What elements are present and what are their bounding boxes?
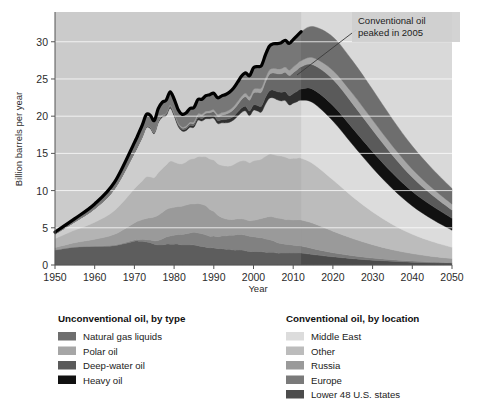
y-tick-label-10: 10 (36, 185, 48, 197)
x-tick-label-2050: 2050 (440, 271, 464, 283)
y-tick-label-5: 5 (42, 222, 48, 234)
legend-swatch-other (286, 347, 304, 356)
x-tick-label-2010: 2010 (282, 271, 306, 283)
x-tick-label-2030: 2030 (361, 271, 385, 283)
legend-swatch-deep-water-oil (58, 361, 76, 370)
annotation-line-2: peaked in 2005 (358, 27, 423, 38)
legend-label-natural-gas-liquids: Natural gas liquids (83, 331, 162, 342)
x-tick-label-1950: 1950 (43, 271, 67, 283)
x-tick-label-2000: 2000 (242, 271, 266, 283)
x-tick-label-1970: 1970 (123, 271, 147, 283)
y-axis-title: Billion barrels per year (13, 92, 24, 187)
legend-swatch-natural-gas-liquids (58, 332, 76, 341)
legend-swatch-europe (286, 376, 304, 385)
legend-label-polar-oil: Polar oil (83, 346, 118, 357)
y-tick-label-0: 0 (42, 259, 48, 271)
historical-region-shade (55, 12, 301, 265)
x-axis-title: Year (248, 283, 267, 294)
legend-swatch-lower-48-u-s-states (286, 390, 304, 399)
legend-label-europe: Europe (311, 375, 342, 386)
forecast-region-shade (55, 12, 301, 265)
legend-label-lower-48-u-s-states: Lower 48 U.S. states (311, 389, 400, 400)
x-tick-label-2020: 2020 (321, 271, 345, 283)
legend-left-title: Unconventional oil, by type (58, 313, 186, 324)
legend-label-middle-east: Middle East (311, 331, 361, 342)
legend-swatch-russia (286, 361, 304, 370)
y-tick-label-20: 20 (36, 110, 48, 122)
legend-label-deep-water-oil: Deep-water oil (83, 360, 145, 371)
legend-label-heavy-oil: Heavy oil (83, 375, 122, 386)
stacked-area-chart: 0510152025301950196019701980199020002010… (0, 0, 480, 409)
legend-label-other: Other (311, 346, 336, 357)
legend-label-russia: Russia (311, 360, 341, 371)
legend-swatch-heavy-oil (58, 376, 76, 385)
legend-right-title: Conventional oil, by location (286, 313, 419, 324)
x-tick-label-1980: 1980 (162, 271, 186, 283)
x-tick-label-1960: 1960 (83, 271, 107, 283)
legend-swatch-middle-east (286, 332, 304, 341)
y-tick-label-15: 15 (36, 147, 48, 159)
oil-production-figure: 0510152025301950196019701980199020002010… (0, 0, 480, 409)
annotation-line-1: Conventional oil (358, 15, 426, 26)
x-tick-label-2040: 2040 (401, 271, 425, 283)
y-tick-label-25: 25 (36, 73, 48, 85)
x-tick-label-1990: 1990 (202, 271, 226, 283)
legend-swatch-polar-oil (58, 347, 76, 356)
y-tick-label-30: 30 (36, 36, 48, 48)
